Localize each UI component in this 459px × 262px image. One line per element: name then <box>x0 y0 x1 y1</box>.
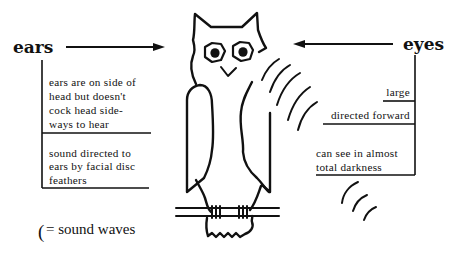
owl-body-right-lower <box>250 186 261 210</box>
legend-text: = sound waves <box>46 221 135 237</box>
branch <box>176 208 279 216</box>
eyes-fact-large: large <box>386 86 410 98</box>
ears-callout: ears ears are on side of head but doesn'… <box>13 37 165 188</box>
ears-fact-facial-disc: sound directed to ears by facial disc fe… <box>49 147 135 186</box>
ears-fact-side-of-head: ears are on side of head but doesn't coc… <box>49 76 136 130</box>
svg-text:can see in almost: can see in almost <box>316 147 398 159</box>
svg-text:feathers: feathers <box>49 174 87 186</box>
svg-text:cock head side-: cock head side- <box>49 104 123 116</box>
owl-illustration <box>176 13 279 237</box>
owl-left-eye-icon <box>205 43 225 62</box>
svg-text:head but doesn't: head but doesn't <box>49 90 127 102</box>
owl-left-wing <box>187 85 213 192</box>
owl-body-right <box>241 82 269 192</box>
owl-beak <box>221 67 236 76</box>
legend-wave-symbol: ( <box>38 221 44 243</box>
svg-text:total darkness: total darkness <box>316 161 382 173</box>
legend: ( = sound waves <box>38 221 135 243</box>
svg-text:ways to hear: ways to hear <box>49 118 109 130</box>
ears-arrow <box>66 43 165 51</box>
eyes-fact-darkness: can see in almost total darkness <box>316 147 398 173</box>
svg-text:sound directed to: sound directed to <box>49 147 131 159</box>
eyes-label: eyes <box>403 34 444 54</box>
ears-label: ears <box>13 37 53 57</box>
owl-senses-diagram: ears ears are on side of head but doesn'… <box>0 0 459 262</box>
owl-tail <box>206 216 252 237</box>
eyes-arrow <box>293 40 393 48</box>
svg-text:ears are on side of: ears are on side of <box>49 76 136 88</box>
sound-waves-lower <box>342 182 376 220</box>
owl-right-wing <box>262 113 270 192</box>
eyes-callout: eyes large directed forward can see in a… <box>293 34 444 175</box>
owl-head-outline <box>191 13 266 84</box>
eyes-fact-directed-forward: directed forward <box>331 109 410 121</box>
svg-text:ears by facial disc: ears by facial disc <box>49 160 135 172</box>
owl-right-eye-icon <box>233 42 253 61</box>
